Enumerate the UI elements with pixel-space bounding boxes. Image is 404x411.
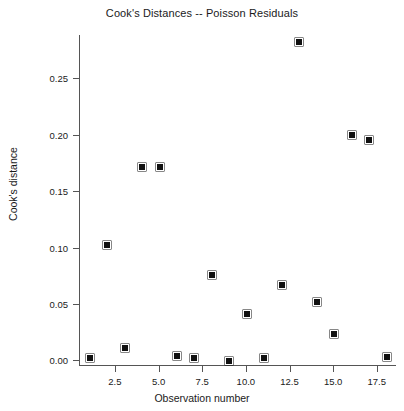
y-tick-mark (73, 191, 79, 192)
data-point (225, 357, 233, 365)
x-tick-mark (333, 366, 334, 372)
x-tick-mark (159, 366, 160, 372)
x-axis-label: Observation number (0, 392, 404, 404)
y-tick-label: 0.05 (8, 299, 68, 310)
x-tick-label: 17.5 (352, 376, 402, 387)
y-tick-mark (73, 304, 79, 305)
x-tick-mark (290, 366, 291, 372)
x-tick-label: 15.0 (308, 376, 358, 387)
data-point (86, 354, 94, 362)
chart-title: Cook's Distances -- Poisson Residuals (0, 7, 404, 19)
chart-figure: Cook's Distances -- Poisson Residuals 0.… (0, 0, 404, 411)
y-tick-mark (73, 248, 79, 249)
x-axis-line (79, 365, 396, 366)
data-point (383, 353, 391, 361)
data-point (348, 131, 356, 139)
x-tick-label: 2.5 (90, 376, 140, 387)
x-tick-mark (115, 366, 116, 372)
x-tick-label: 12.5 (265, 376, 315, 387)
x-tick-label: 10.0 (221, 376, 271, 387)
data-point (330, 330, 338, 338)
x-tick-mark (377, 366, 378, 372)
data-point (173, 352, 181, 360)
data-point (365, 136, 373, 144)
plot-area (80, 35, 396, 365)
x-tick-mark (246, 366, 247, 372)
data-point (243, 310, 251, 318)
data-point (278, 281, 286, 289)
data-point (190, 354, 198, 362)
data-point (295, 38, 303, 46)
data-point (138, 163, 146, 171)
data-point (121, 344, 129, 352)
x-tick-mark (202, 366, 203, 372)
x-tick-label: 5.0 (134, 376, 184, 387)
data-point (156, 163, 164, 171)
data-point (103, 241, 111, 249)
data-point (208, 271, 216, 279)
y-tick-mark (73, 78, 79, 79)
y-tick-mark (73, 135, 79, 136)
y-tick-label: 0.00 (8, 355, 68, 366)
y-tick-mark (73, 360, 79, 361)
y-tick-label: 0.25 (8, 73, 68, 84)
x-tick-label: 7.5 (177, 376, 227, 387)
y-axis-label: Cook's distance (7, 94, 19, 274)
data-point (260, 354, 268, 362)
data-point (313, 298, 321, 306)
